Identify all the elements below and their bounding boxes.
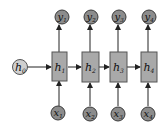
input-node-x4: x4 (141, 107, 155, 121)
hidden-box-h2: h2 (82, 52, 99, 82)
output-node-y3: y3 (112, 10, 126, 24)
rnn-diagram: h0 h1 h2 h3 h4 y1 y2 y3 y4 x1 x2 (0, 0, 168, 130)
output-node-y1: y1 (55, 10, 69, 24)
output-node-y2: y2 (84, 10, 98, 24)
input-node-x1: x1 (51, 106, 65, 120)
hidden-box-h4: h4 (141, 52, 157, 82)
node-h0: h0 (13, 60, 28, 75)
hidden-box-h3: h3 (110, 52, 127, 82)
output-node-y4: y4 (142, 10, 156, 24)
diagram-svg: h0 h1 h2 h3 h4 y1 y2 y3 y4 x1 x2 (0, 0, 168, 130)
input-node-x3: x3 (111, 107, 125, 121)
hidden-box-h1: h1 (52, 52, 67, 81)
input-node-x2: x2 (83, 107, 97, 121)
vertical-edges (59, 25, 148, 106)
